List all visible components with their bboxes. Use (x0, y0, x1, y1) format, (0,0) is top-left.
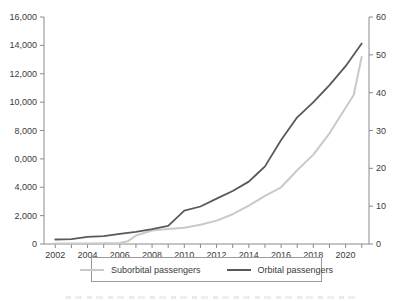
svg-text:2020: 2020 (336, 250, 356, 260)
line-chart: 02,0004,0000,0008,00010,00012,00014,0001… (0, 0, 396, 281)
svg-text:50: 50 (376, 50, 386, 60)
svg-text:60: 60 (376, 12, 386, 22)
orbital-line-swatch (227, 269, 251, 271)
svg-text:12,000: 12,000 (9, 69, 37, 79)
svg-text:14,000: 14,000 (9, 40, 37, 50)
legend-label-suborbital: Suborbital passengers (111, 265, 201, 275)
legend-label-orbital: Orbital passengers (258, 265, 334, 275)
legend: Suborbital passengers Orbital passengers (91, 257, 322, 282)
legend-item-orbital: Orbital passengers (227, 265, 334, 275)
chart-page: 02,0004,0000,0008,00010,00012,00014,0001… (0, 0, 396, 301)
svg-text:30: 30 (376, 126, 386, 136)
svg-text:8,000: 8,000 (14, 126, 37, 136)
svg-text:40: 40 (376, 88, 386, 98)
svg-text:20: 20 (376, 163, 386, 173)
legend-item-suborbital: Suborbital passengers (80, 265, 201, 275)
suborbital-line-swatch (80, 269, 104, 271)
svg-text:10: 10 (376, 201, 386, 211)
svg-text:4,000: 4,000 (14, 182, 37, 192)
svg-text:10,000: 10,000 (9, 97, 37, 107)
svg-text:2002: 2002 (45, 250, 65, 260)
cropped-caption-remnant (66, 296, 358, 299)
svg-text:0: 0 (376, 239, 381, 249)
svg-text:2,000: 2,000 (14, 211, 37, 221)
svg-text:0: 0 (32, 239, 37, 249)
svg-text:0,000: 0,000 (14, 154, 37, 164)
svg-text:16,000: 16,000 (9, 12, 37, 22)
